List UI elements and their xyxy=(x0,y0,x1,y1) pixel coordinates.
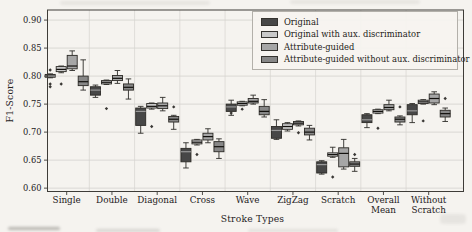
y-tick-label: 0.85 xyxy=(23,43,41,53)
x-tick-label: Diagonal xyxy=(137,195,177,205)
outlier-point xyxy=(60,82,63,85)
legend-item-attribute-guided-no-aux: Attribute-guided without aux. discrimina… xyxy=(261,53,451,65)
outlier-point xyxy=(105,107,108,110)
outlier-point xyxy=(150,125,153,128)
legend-item-attribute-guided: Attribute-guided xyxy=(261,41,451,53)
box xyxy=(90,87,100,95)
outlier-point xyxy=(172,105,175,108)
x-tick-label: Single xyxy=(53,195,81,205)
chart-legend: Original Original with aux. discriminato… xyxy=(252,11,458,70)
legend-label: Attribute-guided without aux. discrimina… xyxy=(284,55,470,63)
box xyxy=(407,105,417,115)
legend-label: Original with aux. discriminator xyxy=(284,30,420,38)
box xyxy=(362,115,372,123)
outlier-point xyxy=(376,126,379,129)
box xyxy=(317,162,327,173)
box xyxy=(259,106,269,114)
outlier-point xyxy=(297,131,300,134)
outlier-point xyxy=(422,119,425,122)
box-series xyxy=(45,51,450,179)
outlier-point xyxy=(241,107,244,110)
x-axis: SingleDoubleDiagonalCrossWaveZigZagScrat… xyxy=(53,192,447,215)
box xyxy=(271,127,281,139)
y-tick-label: 0.90 xyxy=(23,15,41,25)
box xyxy=(136,108,146,125)
x-tick-label: Wave xyxy=(236,195,260,205)
x-tick-label: Double xyxy=(96,195,128,205)
legend-label: Attribute-guided xyxy=(284,43,354,51)
x-tick-label: Scratch xyxy=(321,195,356,205)
box xyxy=(78,76,88,86)
x-tick-label: Without xyxy=(411,195,447,205)
outlier-point xyxy=(230,111,233,114)
x-tick-label: Scratch xyxy=(411,205,446,215)
legend-swatch-original-aux xyxy=(261,31,278,39)
y-tick-label: 0.70 xyxy=(23,127,41,137)
legend-swatch-attribute-guided-no-aux xyxy=(261,56,278,64)
legend-item-original-aux: Original with aux. discriminator xyxy=(261,28,451,40)
x-tick-label: Overall xyxy=(367,195,400,205)
box xyxy=(226,104,236,111)
outlier-point xyxy=(49,85,52,88)
box xyxy=(67,55,77,68)
box xyxy=(339,148,349,167)
outlier-point xyxy=(195,153,198,156)
y-tick-label: 0.80 xyxy=(23,71,41,81)
y-axis: 0.600.650.700.750.800.850.90 xyxy=(23,15,47,193)
outlier-point xyxy=(331,175,334,178)
scanned-boxplot-figure: 0.600.650.700.750.800.850.90SingleDouble… xyxy=(0,0,472,232)
legend-label: Original xyxy=(284,18,319,26)
series-3 xyxy=(78,60,450,171)
y-axis-title: F1-Score xyxy=(4,56,15,146)
outlier-point xyxy=(444,97,447,100)
legend-swatch-original xyxy=(261,18,278,26)
box xyxy=(181,148,191,161)
x-axis-title: Stroke Types xyxy=(160,213,345,224)
x-tick-label: ZigZag xyxy=(277,195,309,205)
outlier-point xyxy=(398,105,401,108)
legend-swatch-attribute-guided xyxy=(261,43,278,51)
y-tick-label: 0.75 xyxy=(23,99,41,109)
x-tick-label: Mean xyxy=(371,205,396,215)
x-tick-label: Cross xyxy=(190,195,216,205)
outlier-point xyxy=(353,153,356,156)
legend-item-original: Original xyxy=(261,16,451,28)
y-tick-label: 0.65 xyxy=(23,155,41,165)
y-tick-label: 0.60 xyxy=(23,183,41,193)
outlier-point xyxy=(49,68,52,71)
